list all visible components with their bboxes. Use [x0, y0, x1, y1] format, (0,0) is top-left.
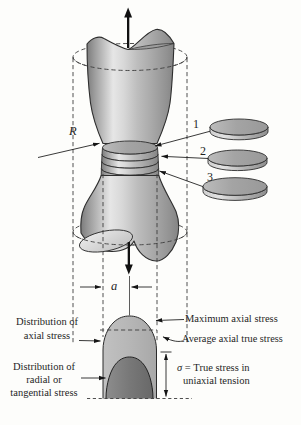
cut-discs	[203, 119, 268, 200]
axial-distribution-label-line2: axial stress	[6, 330, 88, 342]
dimension-a-label: a	[111, 279, 117, 294]
average-axial-stress-label: Average axial true stress	[182, 333, 283, 345]
slice-label-1: 1	[190, 117, 202, 132]
sigma-dimension-line	[161, 352, 172, 397]
slice-label-2: 2	[197, 144, 209, 159]
disc-2	[208, 150, 267, 171]
sigma-definition-line1: σ = True stress in	[177, 362, 250, 374]
sigma-definition-line2: uniaxial tension	[183, 375, 250, 387]
sigma-symbol: σ	[177, 362, 182, 373]
radius-label: R	[69, 124, 77, 139]
figure-necked-specimen: R 1 2 3 a Distribution of axial stress D…	[0, 0, 301, 425]
upper-specimen	[87, 29, 174, 143]
sigma-definition-text: = True stress in	[185, 362, 250, 373]
disc-1	[210, 119, 268, 140]
slice-3-leader	[160, 171, 205, 187]
radius-leader	[38, 143, 100, 157]
radial-distribution-label-line2: radial or	[0, 374, 88, 386]
tension-arrow-up	[124, 8, 132, 49]
neck-top-face	[103, 141, 158, 154]
radial-distribution-label-line1: Distribution of	[0, 361, 88, 373]
slice-label-3: 3	[204, 170, 216, 185]
maximum-axial-stress-label: Maximum axial stress	[185, 313, 278, 325]
radial-distribution-label-line3: tangential stress	[0, 387, 88, 399]
stress-distribution	[103, 316, 157, 399]
axial-distribution-label-line1: Distribution of	[6, 316, 88, 328]
avg-axial-leader	[163, 337, 183, 342]
max-axial-leader	[156, 320, 184, 321]
